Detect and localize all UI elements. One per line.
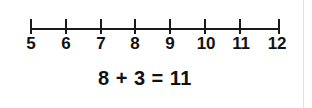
tick-label-5: 5 xyxy=(11,35,51,53)
tick-mark-6 xyxy=(65,19,67,34)
tick-label-10: 10 xyxy=(186,35,226,53)
equation-text: 8 + 3 = 11 xyxy=(0,66,290,90)
tick-mark-7 xyxy=(100,19,102,34)
tick-mark-5 xyxy=(30,19,32,34)
number-line-worksheet: 5 6 7 8 9 10 11 12 8 + 3 = 11 xyxy=(0,0,312,108)
tick-label-11: 11 xyxy=(221,35,261,53)
tick-label-9: 9 xyxy=(150,35,190,53)
tick-mark-12 xyxy=(278,19,280,34)
tick-label-6: 6 xyxy=(46,35,86,53)
tick-label-12: 12 xyxy=(257,35,297,53)
tick-label-8: 8 xyxy=(115,35,155,53)
right-edge-rule xyxy=(303,0,304,108)
tick-mark-9 xyxy=(169,19,171,34)
tick-mark-8 xyxy=(134,19,136,34)
tick-mark-10 xyxy=(204,19,206,34)
number-line: 5 6 7 8 9 10 11 12 xyxy=(0,0,312,60)
tick-mark-11 xyxy=(239,19,241,34)
